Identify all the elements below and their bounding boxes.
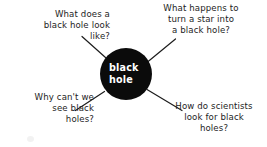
concept-map-diagram: What does a black hole look like? What h… xyxy=(0,0,267,147)
center-node-line-1: black xyxy=(109,62,143,75)
center-node-line-2: hole xyxy=(109,74,143,87)
question-label-star-into: What happens to turn a star into a black… xyxy=(146,3,256,37)
connector-line-star-into xyxy=(148,39,176,62)
question-label-look-like: What does a black hole look like? xyxy=(22,9,110,43)
center-node-black-hole: black hole xyxy=(100,48,152,100)
question-label-scientists: How do scientists look for black holes? xyxy=(163,101,265,135)
scan-artifact-smudge xyxy=(27,136,34,142)
question-label-cant-see: Why can't we see black holes? xyxy=(6,92,94,126)
